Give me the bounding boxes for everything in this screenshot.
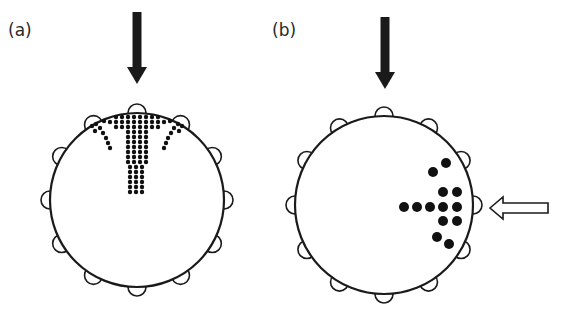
diagram-canvas: [0, 0, 563, 323]
particle-dot: [180, 124, 184, 128]
particle-dot: [138, 150, 142, 154]
arrow-down-icon: [133, 12, 142, 68]
particle-dot: [94, 122, 98, 126]
particle-dot: [132, 155, 136, 159]
arrow-down-head-icon: [127, 67, 147, 84]
particle-dot: [176, 122, 180, 126]
particle-dot: [132, 150, 136, 154]
particle-dot: [102, 119, 106, 123]
particle-dot: [138, 135, 142, 139]
particle-dot: [128, 170, 132, 174]
particle-dot: [132, 125, 136, 129]
arrow-down-icon: [381, 17, 390, 73]
particle-dot: [164, 141, 168, 145]
particle-dot: [120, 115, 124, 119]
particle-dot: [172, 126, 176, 130]
particle-dot: [132, 145, 136, 149]
particle-dot: [134, 190, 138, 194]
particle-dot: [134, 170, 138, 174]
particle-dot: [132, 115, 136, 119]
particle-dot: [144, 145, 148, 149]
particle-dot: [438, 216, 448, 226]
particle-dot: [140, 185, 144, 189]
particle-dot: [132, 135, 136, 139]
particle-dot: [98, 126, 102, 130]
particle-dot: [132, 160, 136, 164]
particle-dot: [126, 160, 130, 164]
particle-dot: [126, 150, 130, 154]
particle-dot: [126, 135, 130, 139]
particle-dot: [166, 136, 170, 140]
particle-dot: [93, 129, 97, 133]
particle-dot: [126, 125, 130, 129]
panel-a: [41, 12, 233, 296]
particle-dot: [156, 125, 160, 129]
particle-dot: [132, 140, 136, 144]
particle-dot: [452, 187, 462, 197]
particle-dot: [441, 158, 451, 168]
particle-dot: [138, 115, 142, 119]
particle-dot: [162, 120, 166, 124]
particle-dot: [132, 130, 136, 134]
particle-dot: [126, 145, 130, 149]
particle-dot: [150, 125, 154, 129]
particle-dot: [168, 119, 172, 123]
particle-dot: [138, 155, 142, 159]
particle-dot: [126, 155, 130, 159]
particle-dot: [144, 130, 148, 134]
particle-dot: [138, 160, 142, 164]
particle-dot: [452, 216, 462, 226]
particle-dot: [428, 167, 438, 177]
particle-dot: [126, 130, 130, 134]
particle-dot: [138, 120, 142, 124]
particle-dot: [177, 129, 181, 133]
particle-dot: [438, 202, 448, 212]
particle-dot: [128, 180, 132, 184]
particle-dot: [156, 115, 160, 119]
particle-dot: [114, 120, 118, 124]
particle-dot: [144, 115, 148, 119]
particle-dot: [144, 120, 148, 124]
particle-dot: [399, 202, 409, 212]
particle-dot: [120, 120, 124, 124]
particle-dot: [138, 130, 142, 134]
particle-dot: [120, 125, 124, 129]
particle-dot: [106, 141, 110, 145]
particle-dot: [132, 120, 136, 124]
particle-dot: [150, 115, 154, 119]
particle-dot: [150, 120, 154, 124]
particle-dot: [144, 160, 148, 164]
particle-dot: [140, 170, 144, 174]
particle-dot: [90, 124, 94, 128]
arrow-left-outline-icon: [490, 197, 548, 219]
particle-dot: [412, 202, 422, 212]
particle-dot: [444, 239, 454, 249]
particle-dot: [162, 146, 166, 150]
particle-dot: [128, 185, 132, 189]
particle-dot: [140, 175, 144, 179]
particle-dot: [169, 131, 173, 135]
particle-dot: [144, 135, 148, 139]
particle-dot: [126, 115, 130, 119]
particle-dot: [128, 190, 132, 194]
particle-dot: [114, 115, 118, 119]
particle-dot: [144, 140, 148, 144]
particle-dot: [140, 190, 144, 194]
arrow-down-head-icon: [375, 72, 395, 89]
particle-dot: [104, 136, 108, 140]
particle-dot: [140, 180, 144, 184]
particle-dot: [134, 175, 138, 179]
particle-dot: [108, 146, 112, 150]
particle-dot: [432, 232, 442, 242]
particle-dot: [144, 155, 148, 159]
panel-b: [286, 17, 548, 303]
particle-dot: [101, 131, 105, 135]
particle-dot: [114, 125, 118, 129]
particle-dot: [438, 187, 448, 197]
particle-dot: [144, 150, 148, 154]
particle-dot: [128, 175, 132, 179]
particle-dot: [138, 140, 142, 144]
particle-dot: [138, 145, 142, 149]
particle-dot: [108, 120, 112, 124]
particle-dot: [144, 125, 148, 129]
